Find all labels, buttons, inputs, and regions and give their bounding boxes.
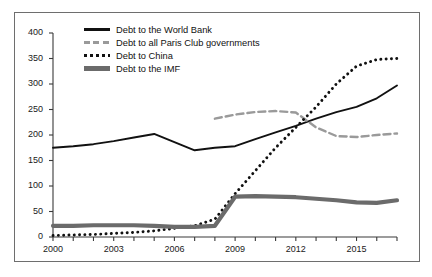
x-axis-ticks	[53, 237, 397, 241]
y-tick-label: 300	[13, 79, 43, 88]
y-tick-label: 0	[13, 232, 43, 241]
legend-item: Debt to all Paris Club governments	[84, 36, 314, 49]
y-axis-ticks	[49, 33, 53, 237]
x-tick-label: 2015	[337, 245, 377, 254]
chart-legend: Debt to the World BankDebt to all Paris …	[84, 23, 314, 75]
x-tick-label: 2000	[33, 245, 73, 254]
legend-label: Debt to all Paris Club governments	[116, 38, 260, 48]
legend-label: Debt to China	[116, 51, 173, 61]
legend-label: Debt to the IMF	[116, 64, 180, 74]
legend-item: Debt to the IMF	[84, 62, 314, 75]
dashed-line-key	[84, 37, 110, 48]
y-tick-label: 400	[13, 28, 43, 37]
thick-line-key	[84, 63, 110, 74]
legend-label: Debt to the World Bank	[116, 25, 212, 35]
series-line	[53, 196, 397, 227]
y-tick-label: 350	[13, 54, 43, 63]
data-series-layer	[53, 59, 397, 236]
chart-figure: 050100150200250300350400 200020032006200…	[0, 0, 432, 277]
y-tick-label: 200	[13, 130, 43, 139]
dotted-line-key	[84, 50, 110, 61]
x-tick-label: 2009	[215, 245, 255, 254]
x-tick-label: 2012	[276, 245, 316, 254]
legend-item: Debt to China	[84, 49, 314, 62]
legend-item: Debt to the World Bank	[84, 23, 314, 36]
series-line	[215, 111, 397, 137]
y-tick-label: 50	[13, 207, 43, 216]
series-line	[53, 86, 397, 151]
x-tick-label: 2006	[154, 245, 194, 254]
x-tick-label: 2003	[94, 245, 134, 254]
y-tick-label: 150	[13, 156, 43, 165]
y-tick-label: 250	[13, 105, 43, 114]
y-tick-label: 100	[13, 181, 43, 190]
solid-line-key	[84, 24, 110, 35]
